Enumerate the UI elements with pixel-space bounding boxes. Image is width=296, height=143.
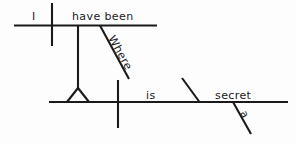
article-label: a — [238, 108, 252, 120]
connector-triangle-right-leg — [78, 88, 89, 102]
sentence-diagram-canvas: I have been Where is secret a — [0, 0, 296, 143]
subject-label: I — [32, 10, 36, 23]
connector-triangle-left-leg — [67, 88, 78, 102]
predicate-noun-label: secret — [215, 89, 252, 102]
main-clause-group: I have been — [14, 3, 157, 46]
clause-connector-group — [67, 26, 89, 102]
subordinate-clause-group: is secret — [49, 78, 288, 128]
conjunction-group: Where — [100, 26, 135, 80]
sentence-diagram-svg: I have been Where is secret a — [0, 0, 296, 143]
predicate-nominative-slant — [182, 78, 200, 102]
verb-label: have been — [72, 10, 134, 23]
conjunction-label: Where — [105, 33, 135, 72]
article-group: a — [233, 102, 252, 134]
dependent-verb-label: is — [146, 89, 156, 102]
